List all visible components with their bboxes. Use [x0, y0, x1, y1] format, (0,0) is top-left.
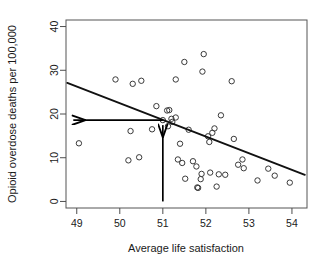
y-tick-label-40: 40 — [48, 21, 60, 33]
x-axis-title: Average life satisfaction — [128, 242, 244, 254]
chart-figure: 010203040 495051525354 Opioid overdose d… — [0, 0, 331, 272]
x-tick-label-49: 49 — [71, 217, 83, 229]
x-tick-label-52: 52 — [200, 217, 212, 229]
y-tick-label-30: 30 — [48, 64, 60, 76]
plot-background — [0, 0, 331, 272]
x-tick-label-51: 51 — [157, 217, 169, 229]
y-tick-label-0: 0 — [48, 198, 60, 204]
y-axis-title: Opioid overdose deaths per 100,000 — [6, 25, 18, 203]
x-tick-label-53: 53 — [243, 217, 255, 229]
x-tick-label-50: 50 — [114, 217, 126, 229]
x-tick-label-54: 54 — [286, 217, 298, 229]
y-tick-label-20: 20 — [48, 108, 60, 120]
y-tick-label-10: 10 — [48, 152, 60, 164]
scatter-plot: 010203040 495051525354 Opioid overdose d… — [0, 0, 331, 272]
